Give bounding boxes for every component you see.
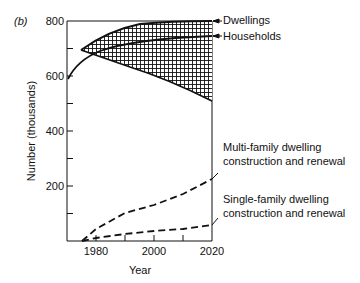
- single-family-label-line1: Single-family dwelling: [223, 193, 329, 206]
- multi-family-label-line1: Multi-family dwelling: [223, 141, 321, 154]
- dwellings-label: Dwellings: [223, 14, 270, 27]
- multi-family-line: [82, 179, 212, 241]
- x-axis-label: Year: [120, 264, 160, 276]
- x-tick-2000: 2000: [134, 245, 174, 257]
- y-axis-label: Number (thousands): [25, 76, 37, 186]
- x-tick-1980: 1980: [76, 245, 116, 257]
- dwellings-shaded-region: [81, 21, 212, 101]
- y-tick-800: 800: [34, 15, 64, 27]
- annotation-arrows: [212, 19, 222, 225]
- x-tick-2020: 2020: [192, 245, 232, 257]
- y-tick-400: 400: [34, 125, 64, 137]
- single-family-label-line2: construction and renewal: [223, 207, 345, 220]
- y-tick-600: 600: [34, 70, 64, 82]
- multi-family-label-line2: construction and renewal: [223, 155, 345, 168]
- single-family-line: [82, 225, 212, 241]
- households-label: Households: [223, 30, 281, 43]
- y-tick-200: 200: [34, 180, 64, 192]
- panel-label: (b): [14, 15, 27, 27]
